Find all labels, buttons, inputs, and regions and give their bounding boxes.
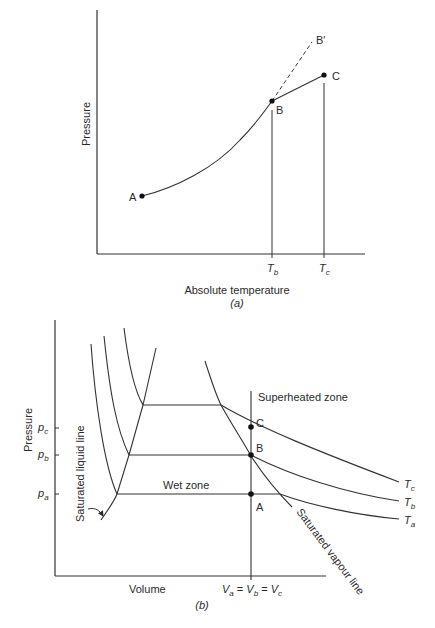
figure-canvas: A B B′ C Tb Tc Pressure Absolute tempera… xyxy=(0,0,435,628)
isotherm-ta-liquid xyxy=(91,344,117,494)
point-a-marker-b xyxy=(248,491,254,497)
tick-tb: Tb xyxy=(267,262,279,277)
isotherm-tb-liquid xyxy=(104,336,129,455)
isotherm-tc-vapour xyxy=(221,405,399,482)
point-a-label-b: A xyxy=(256,501,264,513)
point-c-marker xyxy=(321,72,326,77)
point-c-label: C xyxy=(332,70,340,82)
wet-zone-label: Wet zone xyxy=(163,479,209,491)
point-b-marker xyxy=(269,98,274,103)
panel-b-caption: (b) xyxy=(195,599,209,611)
isotherm-ta-label: Ta xyxy=(404,514,416,529)
saturated-vapour-line-label: Saturated vapour line xyxy=(294,506,367,597)
point-b-label-b: B xyxy=(256,442,263,454)
panel-a: A B B′ C Tb Tc Pressure Absolute tempera… xyxy=(80,10,365,309)
line-b-to-c xyxy=(272,75,324,101)
ytick-pc: pc xyxy=(37,421,48,436)
xtick-volumes: Va = Vb = Vc xyxy=(222,583,282,598)
isotherm-tb-label: Tb xyxy=(404,496,416,511)
point-c-label-b: C xyxy=(256,417,264,429)
panel-a-caption: (a) xyxy=(230,297,244,309)
isotherm-tc-liquid xyxy=(124,328,143,405)
point-b-marker-b xyxy=(248,452,254,458)
panel-a-xlabel: Absolute temperature xyxy=(184,284,289,296)
saturated-liquid-pointer-arrow xyxy=(88,508,103,516)
dashed-b-to-bprime xyxy=(272,42,312,101)
panel-b: C B A Superheated zone Wet zone Saturate… xyxy=(22,320,416,611)
panel-a-ylabel: Pressure xyxy=(80,102,92,146)
point-bprime-label: B′ xyxy=(316,34,325,46)
curve-a-to-b xyxy=(142,101,272,196)
point-a-marker xyxy=(139,193,144,198)
ytick-pa: pa xyxy=(37,487,49,502)
saturated-liquid-line-label: Saturated liquid line xyxy=(74,425,86,522)
tick-tc: Tc xyxy=(319,262,330,277)
panel-b-ylabel: Pressure xyxy=(22,408,34,452)
panel-b-xlabel: Volume xyxy=(129,583,166,595)
point-a-label: A xyxy=(129,191,137,203)
point-b-label: B xyxy=(276,104,283,116)
point-c-marker-b xyxy=(248,424,254,430)
isotherm-tc-label: Tc xyxy=(404,478,415,493)
ytick-pb: pb xyxy=(37,448,49,463)
superheated-zone-label: Superheated zone xyxy=(258,391,348,403)
